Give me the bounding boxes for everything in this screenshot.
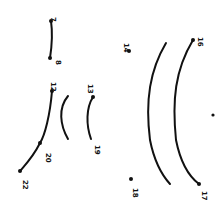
dot-label-12: 12 [49, 82, 57, 92]
dot-label-17: 17 [200, 191, 208, 201]
stroke-arc-mid [148, 43, 170, 184]
dot-8 [48, 56, 52, 60]
dot-center [211, 113, 214, 116]
dot-label-14: 14 [122, 43, 130, 53]
dot-label-18: 18 [131, 188, 139, 198]
dot-label-13: 13 [86, 84, 94, 94]
dot-16 [191, 38, 195, 42]
stroke-7-8 [50, 21, 52, 58]
dot-to-dot-drawing: 78121314161718192022 [0, 0, 217, 211]
stroke-arc-small [61, 96, 68, 139]
dot-label-8: 8 [54, 60, 62, 65]
dot-22 [18, 169, 22, 173]
dot-label-20: 20 [44, 153, 52, 163]
dot-label-22: 22 [21, 180, 29, 190]
stroke-16-17 [174, 40, 199, 184]
dot-label-7: 7 [49, 17, 57, 22]
dot-20 [38, 141, 42, 145]
dot-label-19: 19 [93, 145, 101, 155]
dot-17 [197, 182, 201, 186]
dot-18 [129, 177, 133, 181]
dot-label-16: 16 [196, 37, 204, 47]
dot-13 [91, 95, 95, 99]
stroke-13-19 [87, 97, 93, 139]
